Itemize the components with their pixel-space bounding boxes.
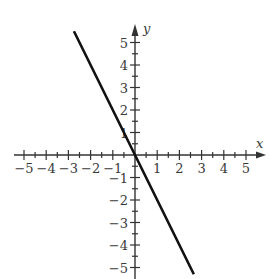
x-tick-label: −4 <box>37 161 56 176</box>
axes <box>14 24 266 279</box>
x-tick-label: 5 <box>242 161 250 176</box>
x-tick-label: −3 <box>59 161 78 176</box>
y-axis-arrow-icon <box>132 24 139 36</box>
x-tick-label: 2 <box>175 161 183 176</box>
coordinate-plane-chart: −5−4−3−2−112345−5−4−3−2−112345 x y <box>0 0 270 279</box>
x-tick-label: 3 <box>197 161 205 176</box>
x-tick-label: 4 <box>220 161 228 176</box>
y-tick-label: 2 <box>120 103 128 118</box>
y-tick-label: −5 <box>109 261 128 276</box>
x-tick-label: −2 <box>81 161 100 176</box>
y-axis-label: y <box>142 21 151 36</box>
y-tick-label: −1 <box>109 171 128 186</box>
y-tick-label: −2 <box>109 193 128 208</box>
data-series <box>74 31 194 274</box>
y-tick-label: 5 <box>120 36 128 51</box>
y-tick-label: 3 <box>120 81 128 96</box>
x-tick-label: 1 <box>153 161 161 176</box>
x-axis-label: x <box>256 136 264 151</box>
y-tick-label: 4 <box>120 58 128 73</box>
y-tick-label: −4 <box>109 238 128 253</box>
y-tick-label: −3 <box>109 216 128 231</box>
x-axis-arrow-icon <box>256 152 266 159</box>
series-line <box>74 31 194 274</box>
x-tick-label: −5 <box>14 161 33 176</box>
